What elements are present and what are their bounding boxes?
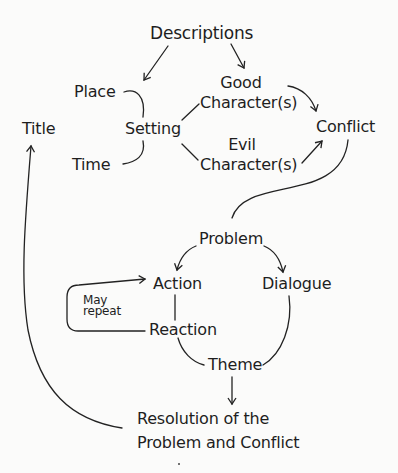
node-resolution-line2: Problem and Conflict xyxy=(137,434,299,452)
edge-problem-dialogue xyxy=(264,246,283,272)
edge-time-setting xyxy=(123,141,144,164)
edge-setting-evil xyxy=(182,144,198,160)
node-reaction: Reaction xyxy=(149,321,217,339)
node-may-repeat-line2: repeat xyxy=(83,306,121,317)
edge-problem-action xyxy=(177,246,196,270)
node-good-character-line2: Character(s) xyxy=(200,94,297,112)
edge-descriptions-good xyxy=(231,44,244,68)
edge-evil-conflict xyxy=(302,141,322,163)
node-place: Place xyxy=(74,83,116,101)
edge-resolution-title xyxy=(24,146,122,428)
node-evil-character-line1: Evil xyxy=(228,136,256,154)
node-problem: Problem xyxy=(199,230,263,248)
node-theme: Theme xyxy=(208,356,262,374)
node-title: Title xyxy=(22,120,55,138)
node-dialogue: Dialogue xyxy=(262,275,331,293)
node-time: Time xyxy=(72,156,110,174)
node-conflict: Conflict xyxy=(316,118,375,136)
edge-place-setting xyxy=(124,91,144,117)
node-setting: Setting xyxy=(125,120,181,138)
stray-mark xyxy=(178,463,180,465)
edge-dialogue-theme xyxy=(263,296,290,365)
node-resolution-line1: Resolution of the xyxy=(137,410,269,428)
node-descriptions: Descriptions xyxy=(150,24,253,42)
node-action: Action xyxy=(153,275,202,293)
edge-setting-good xyxy=(182,104,199,120)
node-good-character-line1: Good xyxy=(220,74,261,92)
node-evil-character-line2: Character(s) xyxy=(200,156,297,174)
edge-descriptions-setting xyxy=(144,46,168,80)
edge-reaction-theme xyxy=(178,338,204,365)
